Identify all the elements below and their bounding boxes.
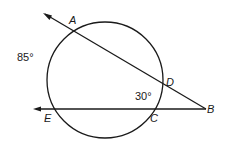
point-label-D: D [166, 76, 174, 88]
point-label-A: A [68, 14, 76, 26]
arrowhead-icon [33, 107, 41, 112]
point-label-B: B [207, 103, 214, 115]
arc-measure-DC: 30° [135, 90, 152, 102]
diagram-canvas: A 85° D 30° C E B [0, 0, 226, 151]
secant-line-BA [45, 14, 206, 109]
arrowhead-icon [43, 13, 52, 20]
point-label-C: C [150, 112, 158, 124]
point-label-E: E [44, 112, 52, 124]
arc-measure-AE: 85° [17, 51, 34, 63]
geometry-figure: A 85° D 30° C E B [0, 0, 226, 151]
circle [47, 22, 163, 138]
